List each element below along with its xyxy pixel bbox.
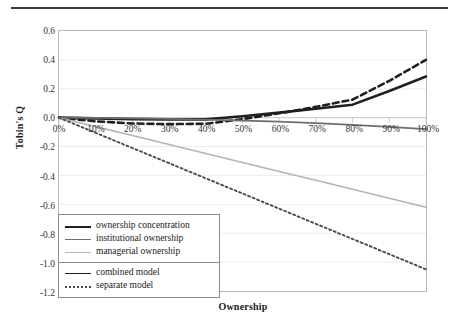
series-line xyxy=(59,60,426,124)
y-axis-tick-label: 0.4 xyxy=(43,55,55,65)
legend-line-swatch xyxy=(65,246,91,257)
legend-item-label: separate model xyxy=(96,280,153,291)
legend-item-label: managerial ownership xyxy=(96,246,180,257)
chart-figure: Tobin's Q 0.60.40.20.0-0.2-0.4-0.6-0.8-1… xyxy=(0,0,459,323)
y-axis-tick-label: -1.2 xyxy=(40,288,55,298)
y-axis-tick-label: 0.0 xyxy=(43,113,55,123)
legend-line-swatch xyxy=(65,233,91,244)
legend-line-swatch xyxy=(65,220,91,231)
x-axis-tick-label: 90% xyxy=(382,124,399,134)
x-axis-tick-label: 100% xyxy=(417,124,439,134)
x-axis-tick-label: 60% xyxy=(272,124,289,134)
legend-item-label: institutional ownership xyxy=(96,233,183,244)
legend-item-label: combined model xyxy=(96,267,160,278)
y-axis-tick-label: -0.8 xyxy=(40,230,55,240)
x-axis-tick-label: 0% xyxy=(53,124,66,134)
x-axis-tick-label: 40% xyxy=(198,124,215,134)
legend-item-label: ownership concentration xyxy=(96,220,190,231)
y-axis-tick-label: -0.2 xyxy=(40,142,55,152)
x-axis-title: Ownership xyxy=(58,301,428,312)
legend-divider xyxy=(59,262,219,263)
chart-legend: ownership concentrationinstitutional own… xyxy=(58,214,220,298)
x-axis-tick-label: 20% xyxy=(124,124,141,134)
legend-group: combined modelseparate model xyxy=(59,265,219,294)
y-axis-tick-label: -0.6 xyxy=(40,201,55,211)
y-axis-tick-label: 0.6 xyxy=(43,26,55,36)
y-axis-tick-label: -1.0 xyxy=(40,259,55,269)
legend-group: ownership concentrationinstitutional own… xyxy=(59,218,219,260)
y-axis-tick-label: -0.4 xyxy=(40,172,55,182)
series-line xyxy=(59,77,426,120)
x-axis-tick-label: 10% xyxy=(87,124,104,134)
top-rule-divider xyxy=(11,7,448,9)
legend-item[interactable]: institutional ownership xyxy=(59,232,219,245)
legend-item[interactable]: ownership concentration xyxy=(59,219,219,232)
x-axis-tick-label: 70% xyxy=(309,124,326,134)
legend-line-swatch xyxy=(65,267,91,278)
x-axis-tick-label: 50% xyxy=(235,124,252,134)
legend-item[interactable]: separate model xyxy=(59,279,219,292)
y-axis-title: Tobin's Q xyxy=(14,83,25,173)
legend-item[interactable]: managerial ownership xyxy=(59,245,219,258)
y-axis-tick-label: 0.2 xyxy=(43,84,55,94)
x-axis-tick-label: 30% xyxy=(161,124,178,134)
legend-item[interactable]: combined model xyxy=(59,266,219,279)
x-axis-tick-label: 80% xyxy=(345,124,362,134)
legend-line-swatch xyxy=(65,280,91,291)
